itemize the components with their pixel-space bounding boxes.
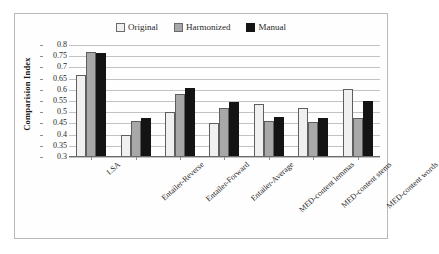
y-tick-label-0.55: 0.55: [53, 97, 67, 105]
y-tick-mark-0.35: [40, 146, 43, 147]
y-tick-mark-0.7: [40, 67, 43, 68]
y-tick-label-0.45: 0.45: [53, 119, 67, 127]
y-tick-label-0.4: 0.4: [57, 131, 67, 139]
legend-label-original: Original: [128, 22, 158, 32]
bar: [175, 94, 185, 157]
bar: [141, 118, 151, 157]
bar: [219, 108, 229, 157]
y-tick-label-0.5: 0.5: [57, 108, 67, 116]
y-tick-label-0.7: 0.7: [57, 63, 67, 71]
bar: [76, 75, 86, 157]
y-tick-label-0.35: 0.35: [53, 142, 67, 150]
bar-group: [291, 45, 335, 157]
y-tick-label-0.6: 0.6: [57, 86, 67, 94]
bar: [308, 122, 318, 157]
chart-legend: Original Harmonized Manual: [15, 22, 387, 32]
bar: [254, 104, 264, 157]
y-axis-title: Comparision Index: [22, 45, 34, 143]
legend-entry-manual: Manual: [246, 22, 286, 32]
y-axis-tick-labels: 0.80.750.70.650.60.550.50.450.40.350.3: [43, 45, 67, 157]
bar-group: [202, 45, 246, 157]
y-tick-mark-0.4: [40, 135, 43, 136]
bar-group: [158, 45, 202, 157]
x-axis-category-labels: LSAEntailer-ReverseEntailer-ForwardEntai…: [69, 160, 380, 234]
chart-figure: Original Harmonized Manual Comparision I…: [14, 13, 388, 239]
bar: [185, 88, 195, 157]
legend-entry-original: Original: [116, 22, 158, 32]
y-tick-mark-0.5: [40, 112, 43, 113]
bar-group: [69, 45, 113, 157]
bar: [343, 89, 353, 157]
bar: [353, 118, 363, 157]
legend-label-manual: Manual: [258, 22, 286, 32]
y-tick-mark-0.75: [40, 56, 43, 57]
legend-swatch-original: [116, 23, 125, 32]
bar: [264, 121, 274, 157]
y-tick-mark-0.3: [40, 157, 43, 158]
bar: [209, 123, 219, 157]
legend-swatch-harmonized: [174, 23, 183, 32]
bar-group: [247, 45, 291, 157]
bar: [131, 121, 141, 157]
bar: [318, 118, 328, 157]
x-axis-label: MED-content words: [385, 160, 439, 211]
y-tick-mark-0.55: [40, 101, 43, 102]
legend-label-harmonized: Harmonized: [186, 22, 230, 32]
x-axis-label: LSA: [105, 160, 122, 177]
bar-group: [113, 45, 157, 157]
y-tick-label-0.8: 0.8: [57, 41, 67, 49]
y-tick-mark-0.45: [40, 123, 43, 124]
y-tick-label-0.65: 0.65: [53, 75, 67, 83]
bar: [298, 108, 308, 157]
x-axis-label: Entailer-Forward: [204, 160, 251, 203]
bar: [363, 101, 373, 157]
bar: [96, 53, 106, 157]
plot-area: 0.80.750.70.650.60.550.50.450.40.350.3: [69, 45, 380, 157]
x-axis-label: Entailer-Average: [248, 160, 294, 203]
y-tick-mark-0.6: [40, 90, 43, 91]
y-tick-mark-0.8: [40, 45, 43, 46]
bar: [121, 135, 131, 157]
x-axis-label: Entailer-Reverse: [159, 160, 205, 203]
x-axis-line: [69, 156, 380, 157]
y-tick-label-0.3: 0.3: [57, 153, 67, 161]
legend-swatch-manual: [246, 23, 255, 32]
bar: [86, 52, 96, 157]
legend-entry-harmonized: Harmonized: [174, 22, 230, 32]
bar: [229, 102, 239, 157]
bar-group: [336, 45, 380, 157]
bar: [274, 117, 284, 157]
y-tick-label-0.75: 0.75: [53, 52, 67, 60]
bar-groups: [69, 45, 380, 157]
y-tick-mark-0.65: [40, 79, 43, 80]
bar: [165, 112, 175, 157]
